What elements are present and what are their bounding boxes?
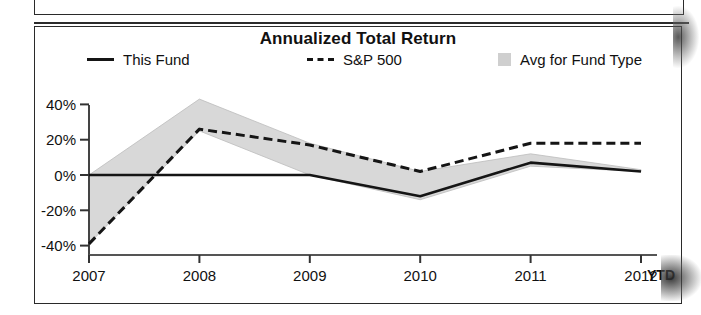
svg-text:0%: 0%	[54, 167, 76, 184]
svg-text:2009: 2009	[293, 267, 326, 284]
svg-text:2008: 2008	[183, 267, 216, 284]
chart-panel: Annualized Total Return This Fund S&P 50…	[34, 26, 682, 304]
svg-text:40%: 40%	[46, 96, 76, 113]
panel-divider-rule	[34, 22, 689, 24]
plot-area: 40%20%0%-20%-40%200720082009201020112012…	[35, 27, 683, 305]
svg-text:2010: 2010	[404, 267, 437, 284]
panel-above-fragment	[34, 0, 684, 15]
svg-text:-40%: -40%	[41, 237, 76, 254]
annualized-total-return-chart: 40%20%0%-20%-40%200720082009201020112012…	[35, 27, 683, 305]
svg-text:2007: 2007	[72, 267, 105, 284]
svg-text:YTD: YTD	[647, 267, 675, 283]
svg-text:2011: 2011	[514, 267, 546, 284]
svg-text:-20%: -20%	[41, 202, 76, 219]
svg-text:20%: 20%	[46, 131, 76, 148]
